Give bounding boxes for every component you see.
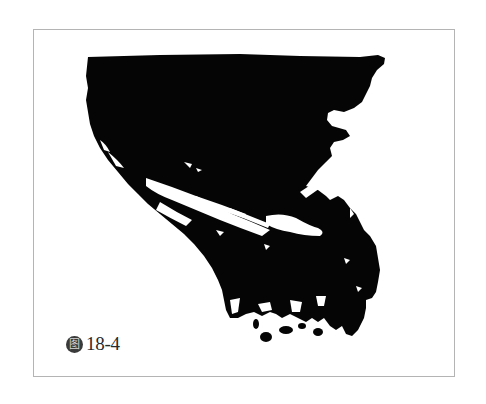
- figure-number: 18-4: [86, 334, 120, 354]
- figure-caption: 图 18-4: [66, 334, 120, 354]
- ink-specks: [253, 319, 323, 342]
- figure-label-icon: 图: [66, 336, 83, 353]
- silhouette-shape: [86, 54, 385, 336]
